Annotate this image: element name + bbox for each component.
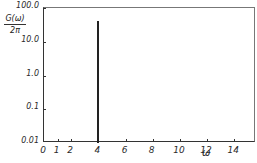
plot-area	[43, 7, 255, 142]
y-axis-title: G(ω) 2π	[4, 14, 26, 35]
x-tick	[71, 139, 72, 142]
y-tick	[43, 42, 46, 43]
x-tick-label: 6	[118, 145, 132, 155]
y-tick-label: 0.01	[9, 136, 39, 145]
x-tick	[126, 139, 127, 142]
spectral-peak	[97, 21, 99, 143]
y-tick	[43, 8, 46, 9]
y-tick-label: 100.0	[9, 1, 39, 10]
x-tick	[207, 139, 208, 142]
x-tick	[180, 139, 181, 142]
y-axis-title-numerator: G(ω)	[4, 14, 26, 25]
x-tick-label: 8	[145, 145, 159, 155]
y-tick	[43, 141, 46, 142]
y-axis-title-denominator: 2π	[4, 25, 26, 35]
x-tick	[153, 139, 154, 142]
x-tick-label: 4	[90, 145, 104, 155]
x-tick-label: 0	[36, 145, 50, 155]
y-tick-label: 10.0	[9, 35, 39, 44]
x-tick-label: 14	[226, 145, 240, 155]
x-tick	[58, 139, 59, 142]
y-tick	[43, 76, 46, 77]
y-tick-label: 1.0	[9, 69, 39, 78]
x-tick-label: 2	[63, 145, 77, 155]
x-tick-label: 10	[172, 145, 186, 155]
x-axis-title: ω	[202, 147, 210, 158]
y-tick-label: 0.1	[9, 102, 39, 111]
x-tick-label: 1	[50, 145, 64, 155]
x-tick	[234, 139, 235, 142]
y-tick	[43, 109, 46, 110]
